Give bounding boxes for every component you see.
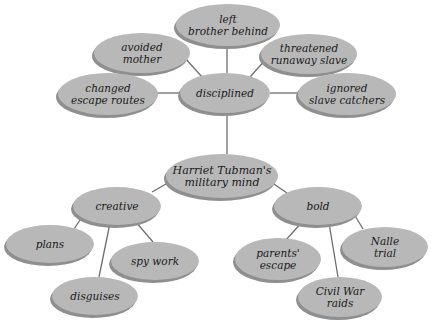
node-label: disguises [70, 290, 120, 302]
node-label: avoided [121, 41, 163, 53]
node-creative: creative [71, 187, 161, 228]
node-label: bold [306, 200, 329, 212]
node-label: threatened [280, 42, 339, 54]
node-label: escape [260, 259, 297, 271]
node-label: ignored [326, 82, 367, 94]
node-label: escape routes [71, 94, 146, 106]
node-threatened-runaway-slave: threatenedrunaway slave [259, 34, 357, 77]
node-changed-escape-routes: changedescape routes [56, 73, 158, 118]
node-nalle-trial: Nalletrial [340, 227, 428, 270]
node-label: parents' [256, 247, 299, 259]
node-label: disciplined [196, 87, 254, 99]
node-label: runaway slave [271, 54, 347, 66]
node-parents-escape: parents'escape [233, 238, 321, 283]
node-avoided-mother: avoidedmother [92, 33, 190, 76]
node-spy-work: spy work [109, 242, 199, 283]
node-label: mother [123, 53, 162, 65]
node-label: changed [85, 82, 131, 94]
node-label: plans [36, 238, 65, 250]
node-civil-war-raids: Civil Warraids [296, 277, 382, 320]
node-label: creative [95, 200, 138, 212]
node-label: left [219, 13, 237, 25]
node-label: slave catchers [309, 94, 386, 106]
node-label: Nalle [370, 235, 399, 247]
node-label: brother behind [188, 25, 268, 37]
edge-disciplined-to-avoided-mother [185, 58, 203, 78]
edge-creative-to-disguises [99, 223, 110, 277]
node-ignored-slave-catchers: ignoredslave catchers [296, 73, 396, 118]
node-label: spy work [131, 255, 179, 267]
node-bold: bold [272, 187, 362, 228]
node-label: trial [374, 247, 396, 259]
concept-map: Harriet Tubman'smilitary minddisciplined… [0, 0, 431, 322]
node-label: raids [327, 297, 354, 309]
node-left-brother-behind: leftbrother behind [174, 4, 280, 49]
node-center: Harriet Tubman'smilitary mind [164, 154, 278, 201]
edge-bold-to-civil-war-raids [329, 223, 338, 277]
node-label: Civil War [316, 285, 366, 297]
node-plans: plans [4, 225, 94, 266]
node-disciplined: disciplined [178, 73, 270, 116]
node-label: military mind [184, 176, 259, 189]
concept-nodes: Harriet Tubman'smilitary minddisciplined… [4, 4, 428, 320]
node-disguises: disguises [50, 277, 138, 318]
